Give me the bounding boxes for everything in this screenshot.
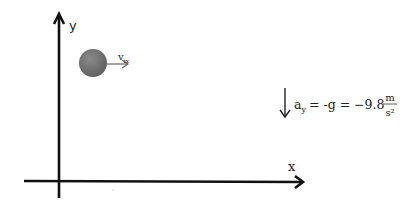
y-axis <box>54 14 64 198</box>
velocity-label: vix <box>117 51 130 64</box>
x-axis-label: x <box>288 159 296 174</box>
acceleration-equation: ay= -g = −9.8 <box>294 97 384 114</box>
acceleration-arrow <box>280 88 290 117</box>
speck <box>112 189 113 190</box>
y-axis-label: y <box>69 18 77 33</box>
projectile-diagram: y x vix ay= -g = −9.8 m s² <box>0 0 415 214</box>
units-numerator: m <box>385 92 395 103</box>
x-axis <box>24 176 303 188</box>
ball <box>79 49 107 77</box>
units-denominator: s² <box>385 107 394 118</box>
